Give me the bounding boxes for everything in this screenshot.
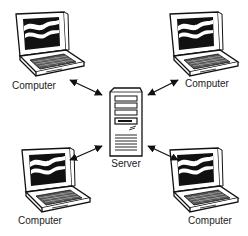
laptop-icon-bottom-right [170, 148, 238, 212]
laptop-icon-bottom-left [22, 148, 90, 212]
arrow-bottom-left [70, 146, 102, 160]
network-diagram: Computer Computer Server Computer Comput… [0, 0, 248, 236]
arrow-top-right [148, 80, 178, 95]
arrow-top-left [70, 80, 102, 95]
laptop-icon-top-right [170, 12, 238, 76]
computer-label-top-left: Computer [12, 80, 56, 91]
server-label: Server [111, 158, 140, 169]
computer-label-bottom-right: Computer [188, 215, 232, 226]
computer-label-bottom-left: Computer [18, 215, 62, 226]
server-tower-icon [110, 88, 142, 156]
diagram-graphics [0, 0, 248, 236]
computer-label-top-right: Computer [185, 78, 229, 89]
laptop-icon-top-left [16, 12, 84, 76]
